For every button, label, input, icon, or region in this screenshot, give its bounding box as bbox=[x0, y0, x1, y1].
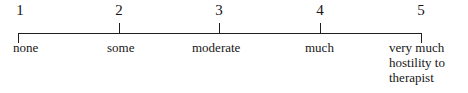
anchor-line: very much bbox=[389, 41, 445, 56]
anchor-line: therapist bbox=[389, 71, 445, 86]
anchor-line: hostility to bbox=[389, 56, 445, 71]
likert-scale-figure: 1 2 3 4 5 none some moderate much very m… bbox=[0, 0, 468, 93]
scale-tick-2 bbox=[119, 23, 120, 33]
scale-anchor-label-4: much bbox=[305, 41, 334, 56]
scale-anchor-label-5: very much hostility to therapist bbox=[389, 41, 445, 86]
scale-numeral-3: 3 bbox=[199, 2, 239, 19]
anchor-line: some bbox=[107, 41, 134, 56]
anchor-line: none bbox=[13, 41, 38, 56]
scale-tick-4 bbox=[320, 23, 321, 33]
scale-tick-3 bbox=[219, 23, 220, 33]
anchor-line: much bbox=[305, 41, 334, 56]
scale-anchor-label-1: none bbox=[13, 41, 38, 56]
anchor-line: moderate bbox=[192, 41, 240, 56]
scale-numeral-4: 4 bbox=[300, 2, 340, 19]
scale-numeral-1: 1 bbox=[0, 2, 40, 19]
scale-numeral-2: 2 bbox=[99, 2, 139, 19]
scale-axis-line bbox=[18, 33, 422, 34]
scale-anchor-label-3: moderate bbox=[192, 41, 240, 56]
scale-anchor-label-2: some bbox=[107, 41, 134, 56]
scale-numeral-5: 5 bbox=[401, 2, 441, 19]
